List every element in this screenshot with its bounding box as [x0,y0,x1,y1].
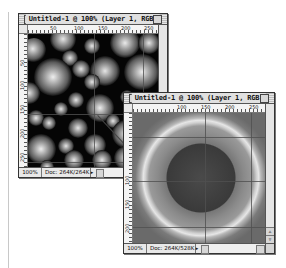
zoom-level-field[interactable]: 100% [19,168,42,177]
zoom-level-field[interactable]: 100% [124,244,147,253]
scroll-down-button[interactable]: ▿ [266,235,274,243]
ruler-tick: 250 [249,104,259,110]
ruler-tick: 100 [177,104,187,110]
ruler-tick: 100 [124,175,130,185]
guide-line[interactable] [205,113,206,243]
zoom-box-icon[interactable] [260,94,269,103]
guide-line[interactable] [133,137,265,138]
resize-grow-box[interactable] [265,244,274,253]
image-canvas-rings[interactable] [133,113,265,243]
ruler-tick: 50 [50,25,56,31]
ruler-tick: 200 [121,25,131,31]
status-bar: 100% Doc: 264K/528K ▸ [124,243,274,253]
document-window-rings[interactable]: Untitled-1 @ 100% (Layer 1, RGB) 100 150… [123,92,275,254]
ruler-tick: 100 [74,25,84,31]
window-title: Untitled-1 @ 100% (Layer 1, RGB) [132,93,266,103]
ruler-tick: 250 [144,25,154,31]
page-margin-line [8,12,9,268]
doc-size-field: Doc: 264K/264K [42,168,91,177]
scroll-left-button[interactable] [96,169,104,178]
scroll-right-button[interactable] [256,245,265,254]
title-bar[interactable]: Untitled-1 @ 100% (Layer 1, RGB) [19,14,167,25]
ruler-origin[interactable] [19,25,28,34]
ruler-tick: 100 [19,80,25,90]
scroll-up-button[interactable]: ▵ [266,227,274,235]
ruler-origin[interactable] [124,104,133,113]
doc-size-field: Doc: 264K/528K [147,244,196,253]
guide-line[interactable] [133,181,265,182]
guide-line[interactable] [133,227,265,228]
vertical-scrollbar[interactable]: ▵ ▿ [265,104,274,243]
status-menu-arrow-icon[interactable]: ▸ [194,244,200,253]
ruler-tick: 200 [19,128,25,138]
title-bar[interactable]: Untitled-1 @ 100% (Layer 1, RGB) [124,93,274,104]
vertical-ruler[interactable]: 100 150 200 [124,113,133,243]
ruler-tick: 200 [124,223,130,233]
ruler-tick: 150 [124,199,130,209]
horizontal-ruler[interactable]: 100 150 200 250 [133,104,265,113]
zoom-box-icon[interactable] [153,15,162,24]
ruler-tick: 150 [98,25,108,31]
ruler-tick: 50 [19,60,25,66]
ruler-tick: 200 [225,104,235,110]
window-title: Untitled-1 @ 100% (Layer 1, RGB) [26,14,160,24]
guide-line[interactable] [251,113,252,243]
ruler-tick: 150 [201,104,211,110]
status-menu-arrow-icon[interactable]: ▸ [89,168,95,177]
scroll-left-button[interactable] [201,245,209,254]
guide-line[interactable] [94,34,95,167]
vertical-ruler[interactable]: 50 100 150 200 250 [19,34,28,167]
horizontal-ruler[interactable]: 50 100 150 200 250 [28,25,158,34]
ruler-tick: 150 [19,104,25,114]
ring-gradient [133,113,265,243]
ruler-tick: 250 [19,152,25,162]
horizontal-scrollbar[interactable] [209,244,257,253]
